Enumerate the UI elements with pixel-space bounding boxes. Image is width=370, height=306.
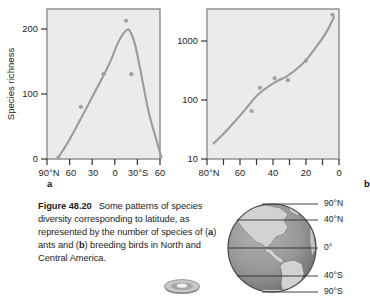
data-point <box>273 76 277 80</box>
x-tick-label-a-4: 30°S <box>128 167 148 178</box>
data-point <box>79 105 83 109</box>
x-axis-ticks-b <box>207 159 339 165</box>
data-point <box>56 156 60 160</box>
y-axis-labels-a: 0 100 200 <box>22 23 38 164</box>
x-tick-label-a-5: 60 <box>155 167 165 178</box>
lat-label-90s: 90°S <box>324 286 343 296</box>
x-tick-label-b-1: 60 <box>235 167 245 178</box>
lat-label-40n: 40°N <box>324 214 343 224</box>
caption-line-1: Some patterns of <box>99 201 169 211</box>
x-axis-labels-b: 80°N 60 40 20 0 <box>199 167 342 178</box>
antarctic-shape <box>228 290 316 298</box>
x-tick-label-a-3: 0 <box>112 167 117 178</box>
y-tick-label-b-1000: 1000 <box>177 35 198 46</box>
y-tick-label-b-10: 10 <box>188 153 198 164</box>
x-tick-label-a-2: 30 <box>88 167 98 178</box>
chart-panel-b: 10 100 1000 80°N <box>176 0 368 178</box>
globe-diagram: 90°N 40°N 0° 40°S 90°S <box>226 194 368 306</box>
figure-caption: Figure 48.20Some patterns of species div… <box>38 200 220 265</box>
data-point <box>330 13 334 17</box>
data-point <box>304 59 308 63</box>
chart-panel-a: 0 100 200 Species richness 90°N <box>0 0 176 178</box>
y-tick-label-a-100: 100 <box>22 88 38 99</box>
x-tick-label-b-0: 80°N <box>199 167 220 178</box>
y-axis-labels-b: 10 100 1000 <box>177 35 198 164</box>
media-disc-icon <box>163 278 201 295</box>
figure-number: Figure 48.20 <box>38 201 92 211</box>
x-tick-label-b-4: 0 <box>336 167 341 178</box>
x-tick-label-b-3: 20 <box>301 167 311 178</box>
caption-line-5-pre: and ( <box>58 240 79 250</box>
lat-label-40s: 40°S <box>324 270 343 280</box>
y-tick-label-a-200: 200 <box>22 23 38 34</box>
lat-label-90n: 90°N <box>324 198 343 208</box>
ants-species-richness-chart: 0 100 200 Species richness 90°N <box>0 0 176 178</box>
charts-row: 0 100 200 Species richness 90°N <box>0 0 368 192</box>
x-axis-labels-a: 90°N 60 30 0 30°S 60 <box>39 167 166 178</box>
data-point <box>129 72 133 76</box>
data-point <box>286 78 290 82</box>
caption-line-4-pre: number of species of ( <box>117 227 208 237</box>
panel-label-a: a <box>47 178 52 189</box>
data-point <box>258 86 262 90</box>
data-point <box>249 109 253 113</box>
caption-line-5-post: ) breeding birds in North <box>85 240 183 250</box>
x-axis-ticks-a <box>47 159 160 165</box>
x-tick-label-a-0: 90°N <box>39 167 60 178</box>
globe-svg <box>226 194 368 306</box>
panel-label-b: b <box>364 178 370 189</box>
y-axis-title-a: Species richness <box>5 48 16 121</box>
data-point <box>101 72 105 76</box>
y-axis-ticks-b <box>201 41 207 159</box>
y-tick-label-a-0: 0 <box>33 153 38 164</box>
y-tick-label-b-100: 100 <box>182 94 198 105</box>
birds-species-richness-chart: 10 100 1000 80°N <box>176 0 368 178</box>
y-axis-ticks-a <box>41 29 47 159</box>
x-tick-label-a-1: 60 <box>66 167 76 178</box>
lat-label-0: 0° <box>324 242 332 252</box>
data-point <box>124 19 128 23</box>
x-tick-label-b-2: 40 <box>268 167 278 178</box>
